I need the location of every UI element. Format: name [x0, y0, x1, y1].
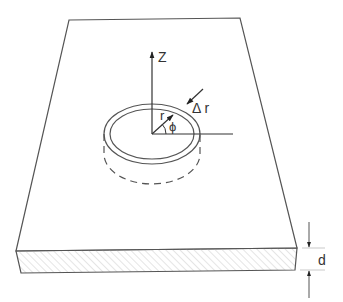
thickness-dimension: d [300, 222, 326, 298]
thickness-label: d [318, 252, 326, 268]
radius-label: r [160, 108, 165, 123]
angle-label: ϕ [169, 119, 176, 134]
plate-diagram: d Z r ϕ Δ r [0, 0, 343, 302]
z-axis-label: Z [158, 49, 167, 65]
ring-width-indicator: Δ r [187, 89, 209, 116]
plate-side-section [16, 248, 297, 273]
ring-width-label: Δ r [192, 100, 209, 116]
